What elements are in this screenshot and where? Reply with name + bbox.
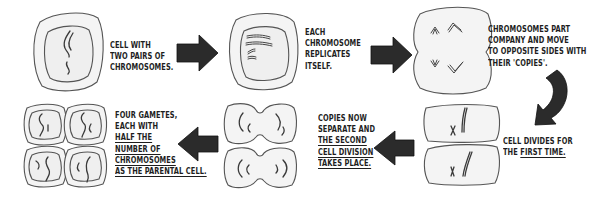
caption-line: the first time. bbox=[503, 147, 573, 158]
step4-caption: Cell divides for the first time. bbox=[503, 136, 573, 158]
curved-arrow-down-icon bbox=[535, 70, 567, 125]
caption-line: as the parental cell. bbox=[115, 166, 207, 177]
caption-line: half the bbox=[115, 132, 207, 143]
caption-line: takes place. bbox=[318, 158, 375, 169]
caption-emphasis: chromosomes bbox=[115, 155, 176, 165]
caption-line: separate and bbox=[318, 124, 375, 135]
caption-line: chromosomes bbox=[115, 155, 207, 166]
caption-line: chromosome bbox=[305, 38, 361, 49]
step1-caption: Cell with two pairs of chromosomes. bbox=[110, 40, 173, 74]
step2-caption: Each chromosome replicates itself. bbox=[305, 27, 361, 72]
caption-emphasis: as the parental cell. bbox=[115, 166, 207, 176]
caption-line: two pairs of bbox=[110, 51, 173, 62]
caption-emphasis: first time. bbox=[520, 147, 565, 157]
caption-line: their 'copies'. bbox=[488, 58, 586, 69]
caption-emphasis: number of bbox=[115, 144, 161, 154]
cell-replicated bbox=[229, 13, 297, 89]
caption-line: to opposite sides with bbox=[488, 46, 586, 57]
caption-line: number of bbox=[115, 144, 207, 155]
caption-line: Cell divides for bbox=[503, 136, 573, 147]
step6-caption: Four gametes, each with half the number … bbox=[115, 110, 207, 177]
caption-line: Cell with bbox=[110, 40, 173, 51]
caption-line: company and move bbox=[488, 35, 586, 46]
caption-line: Four gametes, bbox=[115, 110, 207, 121]
block-arrow-right-icon bbox=[177, 35, 218, 71]
block-arrow-left-icon bbox=[374, 131, 414, 165]
caption-line: replicates bbox=[305, 49, 361, 60]
caption-line: each with bbox=[115, 121, 207, 132]
step3-caption: Chromosomes part company and move to opp… bbox=[488, 24, 586, 69]
caption-line: itself. bbox=[305, 61, 361, 72]
gametes bbox=[24, 104, 106, 187]
cell-parent bbox=[34, 13, 103, 91]
caption-line: the second bbox=[318, 135, 375, 146]
cells-second-division bbox=[224, 104, 296, 188]
caption-line: Copies now bbox=[318, 113, 375, 124]
cell-separating bbox=[414, 7, 492, 94]
caption-prefix: the bbox=[503, 147, 520, 157]
cells-first-division bbox=[424, 105, 500, 186]
block-arrow-right-icon bbox=[371, 37, 412, 73]
caption-emphasis: half the bbox=[115, 132, 152, 142]
caption-line: Each bbox=[305, 27, 361, 38]
caption-line: cell division bbox=[318, 147, 375, 158]
step5-caption: Copies now separate and the second cell … bbox=[318, 113, 375, 169]
caption-line: chromosomes. bbox=[110, 62, 173, 73]
caption-line: Chromosomes part bbox=[488, 24, 586, 35]
